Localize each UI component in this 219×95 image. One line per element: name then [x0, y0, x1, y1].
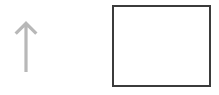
- empty-box[interactable]: [112, 5, 211, 87]
- diagram-canvas: [0, 0, 219, 95]
- up-arrow-icon[interactable]: [12, 17, 40, 77]
- shape-layer: [0, 0, 219, 95]
- up-arrow-path: [15, 21, 38, 72]
